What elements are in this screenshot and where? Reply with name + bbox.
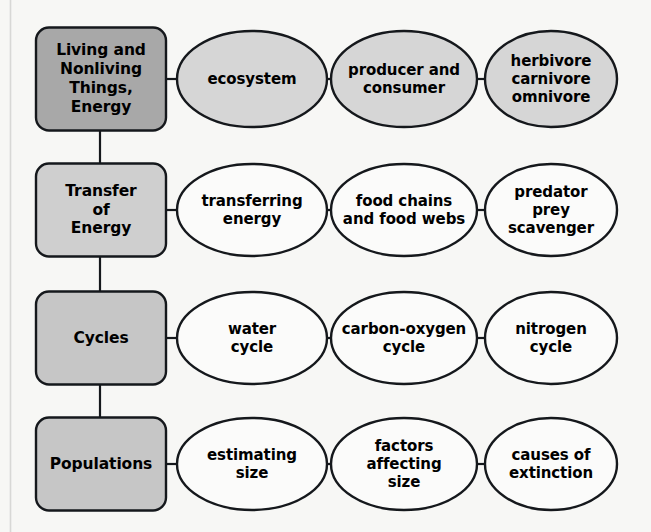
topic-box-row-1[interactable]	[36, 28, 166, 131]
node-ellipse-row-4-3[interactable]	[485, 418, 617, 510]
node-ellipse-row-1-3[interactable]	[485, 31, 617, 127]
node-ellipse-row-2-1[interactable]	[177, 164, 327, 256]
topic-box-row-3[interactable]	[36, 292, 166, 385]
diagram-canvas	[0, 0, 651, 532]
node-ellipse-row-1-2[interactable]	[331, 31, 477, 127]
node-ellipse-row-1-1[interactable]	[177, 31, 327, 127]
node-ellipse-row-4-2[interactable]	[331, 418, 477, 510]
node-ellipse-row-3-3[interactable]	[485, 292, 617, 384]
node-ellipse-row-2-3[interactable]	[485, 164, 617, 256]
topic-box-row-2[interactable]	[36, 164, 166, 257]
topic-box-row-4[interactable]	[36, 418, 166, 511]
concept-map-diagram: Living and Nonliving Things, Energyecosy…	[0, 0, 651, 532]
node-ellipse-row-2-2[interactable]	[331, 164, 477, 256]
node-ellipse-row-3-1[interactable]	[177, 292, 327, 384]
node-ellipse-row-4-1[interactable]	[177, 418, 327, 510]
node-ellipse-row-3-2[interactable]	[331, 292, 477, 384]
